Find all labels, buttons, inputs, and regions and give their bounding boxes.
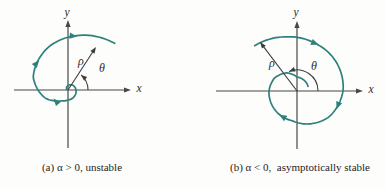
panel-alpha-negative: y x ρ θ (b) α < 0, asymptotically stable bbox=[193, 0, 386, 188]
x-axis-label: x bbox=[136, 83, 141, 95]
x-axis-arrowhead bbox=[356, 88, 363, 93]
y-axis-arrowhead bbox=[65, 20, 70, 27]
spiral-direction-arrowhead bbox=[336, 101, 342, 109]
y-axis-label: y bbox=[293, 7, 298, 19]
spiral-direction-arrowhead bbox=[53, 98, 60, 106]
rho-label: ρ bbox=[78, 55, 84, 67]
caption-b: (b) α < 0, asymptotically stable bbox=[230, 162, 370, 173]
x-axis-arrowhead bbox=[124, 87, 131, 92]
theta-label: θ bbox=[99, 62, 105, 74]
caption-a: (a) α > 0, unstable bbox=[42, 162, 122, 173]
phase-portrait-figure: y x ρ θ (a) α > 0, unstable y x ρ θ (b) … bbox=[0, 0, 386, 188]
y-axis-label: y bbox=[64, 7, 69, 19]
spiral-direction-arrowhead bbox=[32, 60, 39, 68]
theta-label: θ bbox=[311, 60, 317, 72]
spiral-diagram-a bbox=[0, 0, 193, 158]
panel-alpha-positive: y x ρ θ (a) α > 0, unstable bbox=[0, 0, 193, 188]
spiral-direction-arrowhead bbox=[310, 39, 318, 45]
theta-arc-arrowhead bbox=[81, 75, 87, 81]
spiral-diagram-b bbox=[193, 0, 386, 158]
theta-arc-arrowhead bbox=[289, 67, 296, 71]
spiral-trajectory bbox=[255, 37, 344, 124]
y-axis-arrowhead bbox=[294, 21, 299, 28]
rho-arrowhead bbox=[90, 47, 96, 54]
rho-arrowhead bbox=[260, 42, 266, 49]
rho-arrow-line bbox=[262, 44, 297, 91]
x-axis-label: x bbox=[368, 84, 373, 96]
rho-label: ρ bbox=[269, 57, 275, 69]
